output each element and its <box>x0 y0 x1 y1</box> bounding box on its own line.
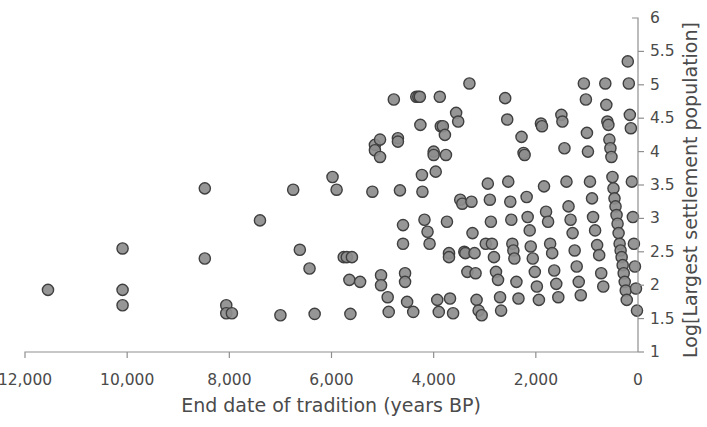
data-point <box>536 121 547 132</box>
data-point <box>417 186 428 197</box>
data-point <box>117 300 128 311</box>
data-point <box>408 306 419 317</box>
y-tick-label: 6 <box>650 9 660 27</box>
x-tick-label: 6,000 <box>309 371 353 389</box>
data-point <box>415 119 426 130</box>
data-point <box>571 261 582 272</box>
data-point <box>596 268 607 279</box>
x-axis-title: End date of tradition (years BP) <box>181 394 481 416</box>
data-point <box>117 243 128 254</box>
data-point <box>580 94 591 105</box>
data-point <box>582 146 593 157</box>
data-point <box>581 127 592 138</box>
data-point <box>444 293 455 304</box>
data-point <box>540 206 551 217</box>
data-point <box>42 284 53 295</box>
data-point <box>621 294 632 305</box>
x-tick-label: 2,000 <box>514 371 558 389</box>
data-point <box>529 266 540 277</box>
data-point <box>467 228 478 239</box>
data-point <box>511 276 522 287</box>
data-point <box>538 181 549 192</box>
x-tick-label: 12,000 <box>0 371 52 389</box>
data-point <box>551 278 562 289</box>
data-point <box>626 176 637 187</box>
data-point <box>488 252 499 263</box>
data-point <box>117 284 128 295</box>
data-point <box>424 238 435 249</box>
data-point <box>382 292 393 303</box>
data-point <box>569 245 580 256</box>
y-tick-label: 5.5 <box>650 42 675 60</box>
data-point <box>346 252 357 263</box>
data-point <box>542 216 553 227</box>
data-point <box>549 265 560 276</box>
data-point <box>625 123 636 134</box>
data-point <box>522 211 533 222</box>
data-point <box>531 281 542 292</box>
data-point <box>600 78 611 89</box>
data-point <box>392 136 403 147</box>
data-point <box>575 290 586 301</box>
y-tick-label: 1.5 <box>650 310 675 328</box>
data-point <box>486 238 497 249</box>
data-point <box>519 149 530 160</box>
data-point <box>453 116 464 127</box>
data-point <box>414 91 425 102</box>
data-point <box>422 226 433 237</box>
data-point <box>601 99 612 110</box>
data-point <box>624 109 635 120</box>
data-point <box>466 196 477 207</box>
data-point <box>533 294 544 305</box>
data-point <box>434 91 445 102</box>
data-point <box>565 214 576 225</box>
data-point <box>503 176 514 187</box>
data-point <box>441 216 452 227</box>
data-point <box>476 310 487 321</box>
data-point <box>607 171 618 182</box>
data-point <box>557 116 568 127</box>
data-point <box>304 263 315 274</box>
data-point <box>345 308 356 319</box>
y-tick-label: 1 <box>650 343 660 361</box>
data-point <box>447 308 458 319</box>
data-point <box>506 214 517 225</box>
data-point <box>397 238 408 249</box>
scatter-plot-canvas <box>0 0 707 427</box>
data-point <box>594 250 605 261</box>
data-point <box>553 292 564 303</box>
data-point <box>494 292 505 303</box>
data-point <box>547 248 558 259</box>
data-point <box>606 151 617 162</box>
data-point <box>505 196 516 207</box>
data-point <box>294 244 305 255</box>
data-point <box>484 194 495 205</box>
data-point <box>402 296 413 307</box>
data-point <box>613 228 624 239</box>
x-axis-ticks <box>127 352 536 358</box>
data-point <box>502 114 513 125</box>
data-point <box>592 240 603 251</box>
data-point <box>521 191 532 202</box>
data-point <box>419 214 430 225</box>
data-point <box>433 306 444 317</box>
data-point <box>623 78 634 89</box>
data-point <box>226 308 237 319</box>
data-point <box>394 185 405 196</box>
data-point <box>500 93 511 104</box>
data-point <box>622 56 633 67</box>
data-points-layer <box>42 56 642 321</box>
data-point <box>428 149 439 160</box>
x-tick-label: 10,000 <box>100 371 154 389</box>
data-point <box>586 193 597 204</box>
data-point <box>374 134 385 145</box>
data-point <box>470 268 481 279</box>
data-point <box>563 201 574 212</box>
data-point <box>629 261 640 272</box>
data-point <box>516 131 527 142</box>
data-point <box>388 94 399 105</box>
data-point <box>578 78 589 89</box>
data-point <box>561 176 572 187</box>
data-point <box>496 305 507 316</box>
data-point <box>587 211 598 222</box>
